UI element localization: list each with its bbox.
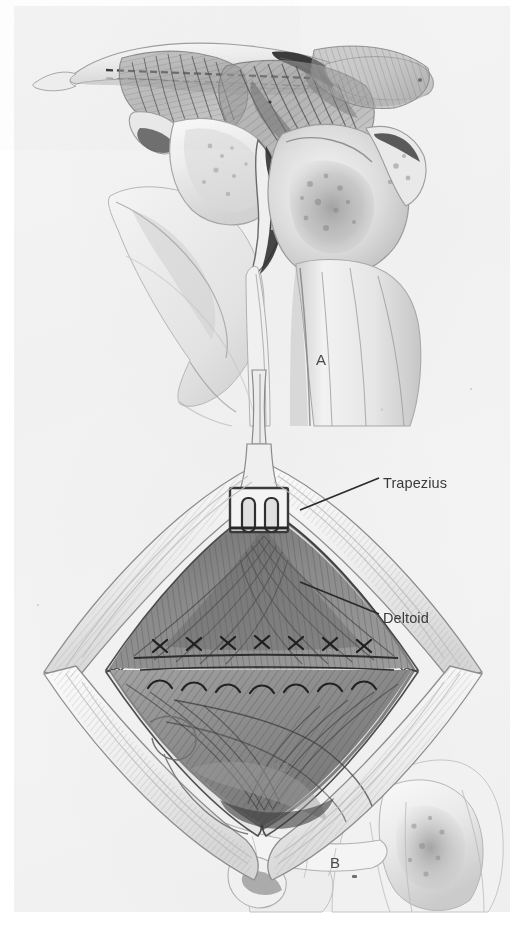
artist-signature: O.Z. (271, 760, 291, 776)
retractor-shaft (240, 444, 278, 490)
panel-letter-b: B (330, 855, 341, 870)
retractor-handle (252, 370, 266, 444)
panel-b-drawing (34, 370, 503, 912)
deltoid-landmark-dot (268, 100, 271, 103)
self-retaining-retractor (230, 370, 288, 532)
figure-page: Trapezius Deltoid A B O.Z. (0, 0, 524, 935)
clavicle-tip-left (33, 72, 76, 91)
label-trapezius: Trapezius (383, 476, 447, 491)
scan-speck (470, 388, 472, 390)
label-deltoid: Deltoid (383, 611, 429, 626)
scan-speck (37, 604, 39, 606)
panel-letter-a: A (316, 352, 327, 367)
panel-a-illustration (14, 6, 510, 426)
panel-b-illustration (14, 370, 510, 912)
scan-speck (352, 875, 357, 878)
panel-a-drawing (33, 36, 444, 426)
scan-speck (381, 408, 383, 411)
retractor-frame (230, 488, 288, 532)
